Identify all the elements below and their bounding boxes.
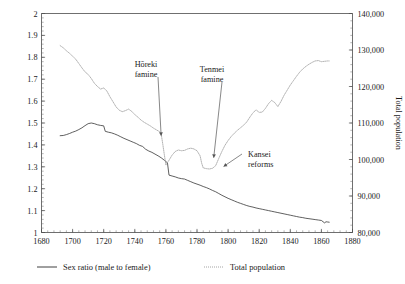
y-right-tick-label: 90,000 bbox=[358, 192, 381, 201]
population-sex-ratio-chart: 1680170017201740176017801800182018401860… bbox=[0, 0, 405, 284]
annotation-label-horeki-line1: Hōreki bbox=[135, 60, 158, 69]
y-axis-right-title-text: Total population bbox=[394, 96, 403, 150]
y-axis-right-title: Total population bbox=[394, 96, 403, 150]
x-tick-label: 1740 bbox=[127, 237, 143, 246]
y-left-tick-label: 2 bbox=[33, 10, 37, 19]
y-right-tick-label: 80,000 bbox=[358, 229, 381, 238]
y-left-tick-label: 1.5 bbox=[27, 119, 37, 128]
x-tick-label: 1840 bbox=[282, 237, 298, 246]
x-tick-label: 1800 bbox=[220, 237, 236, 246]
y-right-tick-label: 100,000 bbox=[358, 156, 385, 165]
y-left-tick-label: 1 bbox=[33, 229, 37, 238]
y-left-tick-label: 1.1 bbox=[27, 207, 37, 216]
annotation-label-tenmei-line1: Tenmei bbox=[200, 65, 225, 74]
legend-label-total-population: Total population bbox=[230, 263, 286, 272]
x-tick-label: 1760 bbox=[158, 237, 174, 246]
x-tick-label: 1860 bbox=[313, 237, 329, 246]
annotation-label-kansei-line2: reforms bbox=[248, 160, 273, 169]
x-tick-label: 1820 bbox=[251, 237, 267, 246]
y-right-tick-label: 110,000 bbox=[358, 119, 384, 128]
legend-label-sex-ratio: Sex ratio (male to female) bbox=[63, 263, 151, 272]
x-tick-label: 1880 bbox=[344, 237, 360, 246]
y-left-tick-label: 1.7 bbox=[27, 75, 37, 84]
y-left-tick-label: 1.6 bbox=[27, 97, 37, 106]
y-right-tick-label: 140,000 bbox=[358, 10, 385, 19]
y-left-tick-label: 1.2 bbox=[27, 185, 37, 194]
y-left-tick-label: 1.9 bbox=[27, 31, 37, 40]
y-left-tick-label: 1.8 bbox=[27, 53, 37, 62]
x-tick-label: 1680 bbox=[33, 237, 49, 246]
annotation-label-horeki-line2: famine bbox=[135, 70, 158, 79]
x-tick-label: 1780 bbox=[189, 237, 205, 246]
y-left-tick-label: 1.3 bbox=[27, 163, 37, 172]
x-tick-label: 1720 bbox=[96, 237, 112, 246]
y-right-tick-label: 130,000 bbox=[358, 46, 385, 55]
annotation-label-tenmei-line2: famine bbox=[201, 75, 224, 84]
y-right-tick-label: 120,000 bbox=[358, 83, 385, 92]
annotation-label-kansei-line1: Kansei bbox=[248, 150, 271, 159]
y-left-tick-label: 1.4 bbox=[27, 141, 37, 150]
x-tick-label: 1700 bbox=[64, 237, 80, 246]
